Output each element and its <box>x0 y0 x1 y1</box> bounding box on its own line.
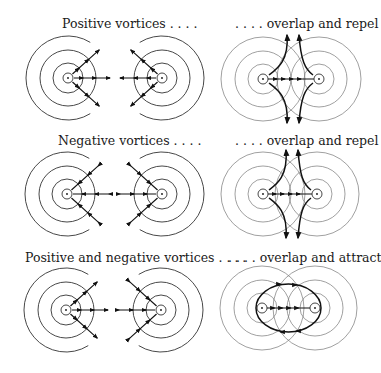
repel-field-line <box>298 150 311 190</box>
flow-arrow <box>141 59 144 62</box>
flow-arrow <box>128 222 131 225</box>
flow-arrow <box>127 338 130 341</box>
vortex-core <box>262 78 264 80</box>
flow-arrow <box>137 329 140 332</box>
vortex-core-positive <box>161 77 163 79</box>
flow-arrow <box>151 68 154 71</box>
overlapping-vortex-pair <box>220 266 357 350</box>
row1-left-label: Positive vortices . . . . <box>62 16 197 31</box>
flow-arrow <box>88 213 91 216</box>
vortex-core <box>314 307 316 309</box>
overlapping-vortex-pair <box>221 150 359 238</box>
flow-arrow <box>141 94 144 97</box>
flow-arrow <box>84 326 87 329</box>
flow-arrow <box>78 181 81 184</box>
vortex-core-positive <box>65 309 67 311</box>
flow-arrow <box>86 59 89 62</box>
row3-right-label: . . . . overlap and attract <box>228 250 381 265</box>
flow-arrow <box>98 163 101 166</box>
flow-arrow <box>138 213 141 216</box>
flow-arrow <box>86 94 89 97</box>
flow-arrow <box>84 291 87 294</box>
vortex-core <box>261 307 263 309</box>
flow-arrow <box>151 85 154 88</box>
flow-arrow <box>94 282 97 285</box>
flow-arrow <box>74 317 77 320</box>
separate-vortex-pair <box>24 268 203 352</box>
flow-arrow <box>94 335 97 338</box>
vortex-core <box>262 193 264 195</box>
vortex-core <box>318 78 320 80</box>
flow-arrow <box>131 50 134 53</box>
flow-arrow <box>78 204 81 207</box>
repel-field-line <box>298 198 311 238</box>
flow-arrow <box>74 300 77 303</box>
vortex-core-positive <box>67 77 69 79</box>
flow-arrow <box>138 173 141 176</box>
flow-arrow <box>147 297 150 300</box>
vortex-diagram: Positive vortices . . . . . . . . overla… <box>0 0 381 373</box>
separate-vortex-pair <box>26 36 204 120</box>
flow-arrow <box>137 289 140 292</box>
flow-arrow <box>96 50 99 53</box>
row3-left-label: Positive and negative vortices . . . . <box>25 250 246 265</box>
flow-arrow <box>147 320 150 323</box>
flow-arrow <box>76 85 79 88</box>
vortex-core-negative <box>66 193 68 195</box>
row2-left-label: Negative vortices . . . . <box>58 133 201 148</box>
row1-right-label: . . . . overlap and repel <box>235 16 378 31</box>
vortex-core-negative <box>161 193 163 195</box>
flow-arrow <box>88 173 91 176</box>
flow-arrow <box>96 103 99 106</box>
vortex-core-negative <box>160 309 162 311</box>
overlapping-vortex-pair <box>221 35 361 123</box>
flow-arrow <box>148 181 151 184</box>
flow-arrow <box>127 279 130 282</box>
vortex-core <box>316 193 318 195</box>
flow-arrow <box>131 103 134 106</box>
row2-right-label: . . . . overlap and repel <box>235 133 378 148</box>
flow-arrow <box>128 163 131 166</box>
flow-arrow <box>76 68 79 71</box>
flow-arrow <box>148 204 151 207</box>
separate-vortex-pair <box>25 152 204 236</box>
flow-arrow <box>98 222 101 225</box>
